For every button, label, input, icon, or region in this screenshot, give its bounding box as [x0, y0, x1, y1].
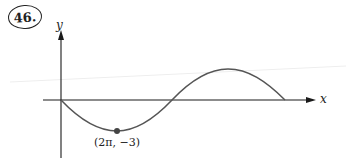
minimum-point: [114, 128, 120, 134]
x-axis-arrow-icon: [306, 97, 316, 103]
figure: 46. y x (2π, −3): [0, 0, 346, 162]
graph: [0, 0, 346, 162]
scan-artifact-line: [10, 66, 346, 82]
y-axis-arrow-icon: [58, 30, 64, 40]
